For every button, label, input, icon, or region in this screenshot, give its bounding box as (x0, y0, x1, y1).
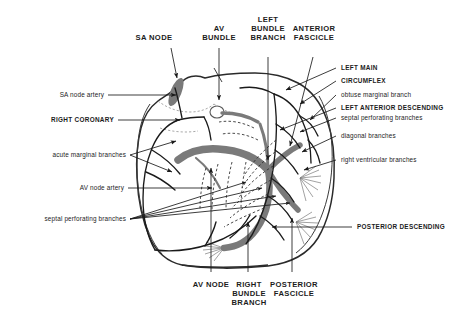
label-left-anterior-descending: LEFT ANTERIOR DESCENDING (341, 104, 443, 113)
label-anterior-fascicle-line2: FASCICLE (283, 34, 345, 43)
label-obtuse-marginal-branch: obtuse marginal branch (341, 91, 411, 100)
label-av-node-artery: AV node artery (8, 184, 124, 193)
label-right-ventricular-branches: right ventricular branches (341, 156, 417, 165)
label-diagonal-branches: diagonal branches (341, 132, 396, 141)
label-septal-perforating-branches-left: septal perforating branches (4, 215, 126, 224)
leader-sa-node (171, 48, 177, 78)
label-circumflex: CIRCUMFLEX (341, 77, 386, 86)
label-sa-node-artery: SA node artery (8, 91, 104, 100)
heart-silhouette (137, 73, 335, 268)
label-posterior-fascicle-line2: FASCICLE (263, 290, 325, 299)
label-right-coronary: RIGHT CORONARY (8, 116, 114, 125)
label-left-main: LEFT MAIN (341, 64, 378, 73)
label-posterior-descending: POSTERIOR DESCENDING (357, 223, 445, 232)
label-right-bundle-branch-line3: BRANCH (222, 299, 276, 308)
label-septal-perforating-branches-right: septal perforating branches (341, 114, 423, 123)
label-acute-marginal-branches: acute marginal branches (6, 151, 126, 160)
leader-left-main (286, 68, 336, 90)
label-sa-node: SA NODE (118, 34, 190, 43)
